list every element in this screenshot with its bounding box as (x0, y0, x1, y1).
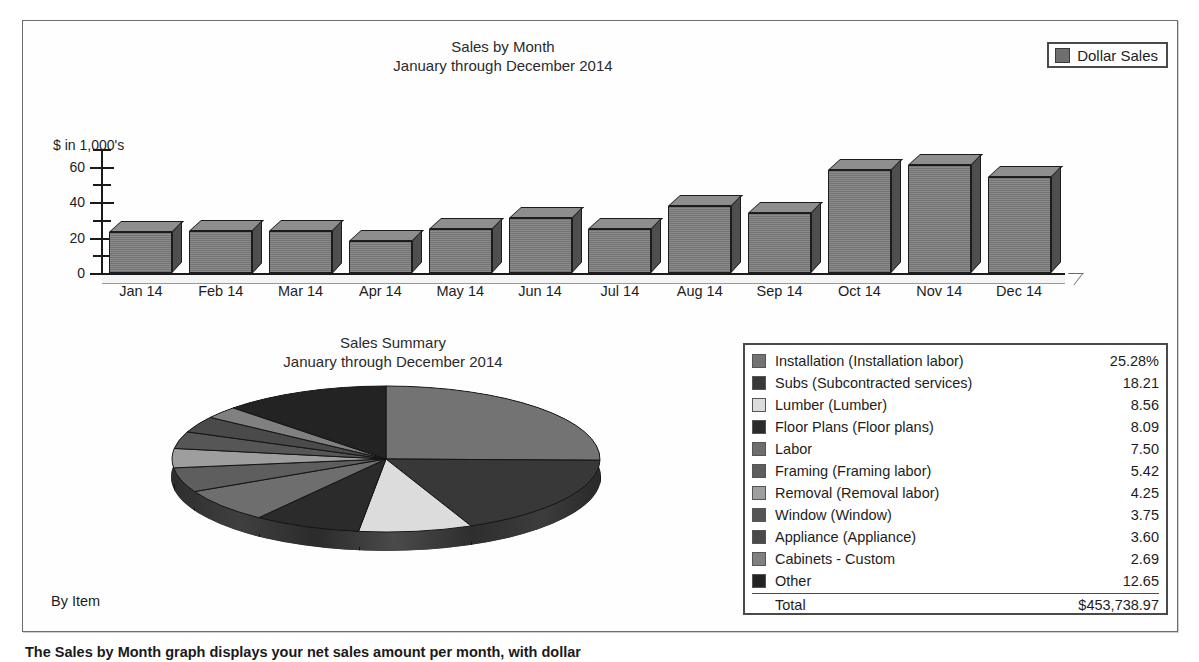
bar-aug-14 (668, 206, 731, 273)
bar-nov-14 (908, 165, 971, 273)
legend-row[interactable]: Cabinets - Custom2.69 (752, 548, 1159, 570)
legend-swatch-icon (752, 354, 766, 368)
legend-swatch-icon (752, 486, 766, 500)
legend-swatch-icon (752, 574, 766, 588)
x-tick-label-jun-14: Jun 14 (503, 283, 578, 299)
legend-row[interactable]: Window (Window)3.75 (752, 504, 1159, 526)
legend-row-label: Labor (775, 441, 1131, 457)
bar-side-face (332, 219, 342, 273)
report-screenshot: Sales by Month January through December … (0, 0, 1199, 662)
legend-row-label: Subs (Subcontracted services) (775, 375, 1123, 391)
x-tick-label-nov-14: Nov 14 (902, 283, 977, 299)
bar-front-face (269, 231, 332, 274)
dollar-sales-swatch (1055, 48, 1070, 63)
legend-swatch-icon (752, 508, 766, 522)
legend-row-label: Installation (Installation labor) (775, 353, 1110, 369)
bar-sep-14 (748, 213, 811, 273)
legend-swatch-icon (752, 442, 766, 456)
x-tick-label-aug-14: Aug 14 (662, 283, 737, 299)
bar-jan-14 (109, 232, 172, 273)
x-axis-labels: Jan 14Feb 14Mar 14Apr 14May 14Jun 14Jul … (71, 283, 1071, 305)
bar-chart-legend[interactable]: Dollar Sales (1047, 42, 1168, 68)
pie-legend-table[interactable]: Installation (Installation labor)25.28%S… (743, 343, 1168, 615)
legend-row-value: 3.60 (1131, 529, 1159, 545)
x-tick-label-mar-14: Mar 14 (263, 283, 338, 299)
pie-chart (171, 385, 611, 585)
legend-row-value: 4.25 (1131, 485, 1159, 501)
bar-front-face (349, 241, 412, 273)
legend-row-label: Framing (Framing labor) (775, 463, 1131, 479)
legend-swatch-icon (752, 420, 766, 434)
pie-rim-divider-4 (194, 508, 195, 530)
pie-top-surface (171, 385, 601, 533)
legend-row-label: Appliance (Appliance) (775, 529, 1131, 545)
y-tick-label-0: 0 (59, 265, 85, 281)
bar-jun-14 (509, 218, 572, 273)
legend-row[interactable]: Other12.65 (752, 570, 1159, 592)
bar-mar-14 (269, 231, 332, 274)
bar-front-face (908, 165, 971, 273)
bar-chart-region: Sales by Month January through December … (23, 21, 1177, 319)
y-tick-30 (93, 220, 111, 222)
bar-front-face (109, 232, 172, 273)
bar-oct-14 (828, 170, 891, 273)
bar-plot-area: 0204060 (71, 141, 1071, 301)
legend-row-value: 2.69 (1131, 551, 1159, 567)
pie-rim-divider-1 (471, 542, 472, 551)
y-tick-60 (90, 167, 114, 169)
bar-side-face (731, 195, 741, 273)
bar-side-face (572, 207, 582, 273)
legend-row-value: 8.56 (1131, 397, 1159, 413)
legend-swatch-icon (752, 376, 766, 390)
y-tick-label-40: 40 (59, 194, 85, 210)
legend-swatch-icon (752, 530, 766, 544)
x-tick-label-oct-14: Oct 14 (822, 283, 897, 299)
bar-front-face (828, 170, 891, 273)
legend-row[interactable]: Framing (Framing labor)5.42 (752, 460, 1159, 482)
y-tick-40 (90, 202, 114, 204)
legend-row[interactable]: Installation (Installation labor)25.28% (752, 350, 1159, 372)
x-tick-label-jul-14: Jul 14 (582, 283, 657, 299)
bar-front-face (668, 206, 731, 273)
legend-row-value: 12.65 (1123, 573, 1159, 589)
legend-swatch-icon (752, 552, 766, 566)
x-tick-label-jan-14: Jan 14 (103, 283, 178, 299)
bar-dec-14 (988, 177, 1051, 273)
pie-rim-divider-5 (174, 484, 175, 506)
pie-rim-divider-3 (259, 534, 260, 551)
bar-front-face (588, 229, 651, 273)
x-tick-label-apr-14: Apr 14 (343, 283, 418, 299)
legend-row[interactable]: Lumber (Lumber)8.56 (752, 394, 1159, 416)
pie-chart-region: Sales Summary January through December 2… (23, 319, 1177, 631)
pie-slice-0 (386, 386, 600, 460)
bar-side-face (651, 218, 661, 273)
legend-row-label: Other (775, 573, 1123, 589)
legend-row[interactable]: Removal (Removal labor)4.25 (752, 482, 1159, 504)
legend-row[interactable]: Labor7.50 (752, 438, 1159, 460)
legend-row-value: 25.28% (1110, 353, 1159, 369)
legend-row-value: 5.42 (1131, 463, 1159, 479)
y-tick-70 (93, 149, 111, 151)
y-axis-labels: 0204060 (55, 141, 85, 281)
bar-front-face (189, 231, 252, 274)
legend-row[interactable]: Floor Plans (Floor plans)8.09 (752, 416, 1159, 438)
legend-row-value: 18.21 (1123, 375, 1159, 391)
pie-rim-divider-2 (359, 547, 360, 551)
legend-row-label: Removal (Removal labor) (775, 485, 1131, 501)
legend-row-label: Lumber (Lumber) (775, 397, 1131, 413)
x-tick-label-may-14: May 14 (423, 283, 498, 299)
legend-row[interactable]: Appliance (Appliance)3.60 (752, 526, 1159, 548)
pie-chart-grouping-label: By Item (51, 593, 100, 609)
bar-side-face (971, 154, 981, 273)
bar-front-face (429, 229, 492, 273)
legend-row[interactable]: Subs (Subcontracted services)18.21 (752, 372, 1159, 394)
bar-chart-title: Sales by Month January through December … (23, 37, 983, 75)
y-tick-label-60: 60 (59, 159, 85, 175)
legend-swatch-icon (752, 398, 766, 412)
bar-front-face (509, 218, 572, 273)
bar-front-face (748, 213, 811, 273)
bar-side-face (811, 202, 821, 273)
pie-rim-divider-0 (600, 476, 601, 498)
bar-side-face (172, 221, 182, 273)
bar-chart-legend-label: Dollar Sales (1077, 47, 1158, 64)
